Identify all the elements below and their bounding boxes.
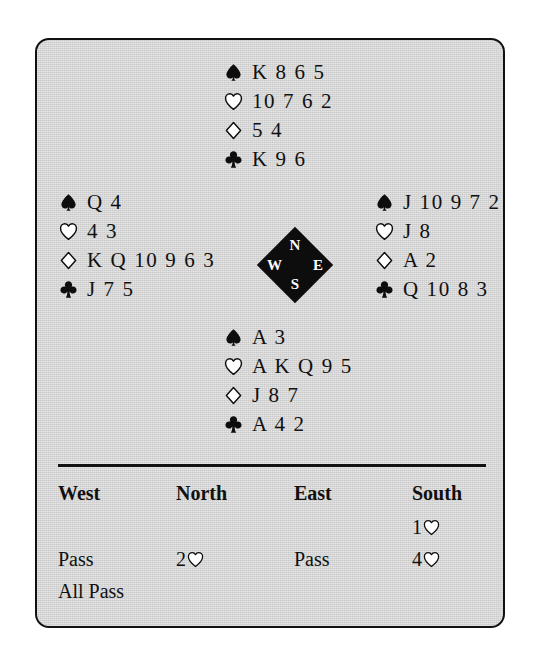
north-spades-ranks: K 8 6 5 bbox=[252, 62, 326, 83]
auction-row: 1 bbox=[58, 512, 490, 544]
compass-label-north: N bbox=[290, 238, 301, 253]
diamond-icon bbox=[224, 121, 243, 140]
east-spades-ranks: J 10 9 7 2 bbox=[403, 192, 501, 213]
west-diamonds-ranks: K Q 10 9 6 3 bbox=[87, 250, 215, 271]
auction-header-east: East bbox=[294, 476, 412, 512]
spade-icon bbox=[224, 63, 243, 82]
south-spades-ranks: A 3 bbox=[252, 327, 287, 348]
spade-icon bbox=[59, 193, 78, 212]
auction-header-north: North bbox=[176, 476, 294, 512]
diamond-icon bbox=[375, 251, 394, 270]
auction-cell-south: 1 bbox=[412, 512, 490, 544]
auction-cell-west bbox=[58, 512, 176, 544]
compass-label-south: S bbox=[291, 277, 299, 292]
bid-level: 4 bbox=[412, 548, 422, 571]
club-icon bbox=[224, 150, 243, 169]
club-icon bbox=[224, 415, 243, 434]
south-clubs-line: A 4 2 bbox=[224, 410, 353, 439]
auction-row: Pass 2 Pass 4 bbox=[58, 544, 490, 576]
north-diamonds-line: 5 4 bbox=[224, 116, 333, 145]
west-clubs-ranks: J 7 5 bbox=[87, 279, 135, 300]
hand-west: Q 4 4 3 K Q 10 9 6 3 J 7 5 bbox=[59, 188, 215, 304]
west-diamonds-line: K Q 10 9 6 3 bbox=[59, 246, 215, 275]
south-hearts-ranks: A K Q 9 5 bbox=[252, 356, 353, 377]
east-diamonds-line: A 2 bbox=[375, 246, 501, 275]
west-spades-ranks: Q 4 bbox=[87, 192, 123, 213]
auction-header-south: South bbox=[412, 476, 490, 512]
diamond-icon bbox=[224, 386, 243, 405]
west-clubs-line: J 7 5 bbox=[59, 275, 215, 304]
north-hearts-line: 10 7 6 2 bbox=[224, 87, 333, 116]
north-clubs-line: K 9 6 bbox=[224, 145, 333, 174]
hand-north: K 8 6 5 10 7 6 2 5 4 K 9 6 bbox=[224, 58, 333, 174]
heart-icon bbox=[187, 551, 204, 568]
east-hearts-line: J 8 bbox=[375, 217, 501, 246]
auction-cell-north bbox=[176, 512, 294, 544]
north-diamonds-ranks: 5 4 bbox=[252, 120, 283, 141]
auction-header-west: West bbox=[58, 476, 176, 512]
south-hearts-line: A K Q 9 5 bbox=[224, 352, 353, 381]
compass-label-west: W bbox=[267, 258, 282, 273]
heart-icon bbox=[423, 551, 440, 568]
compass-label-east: E bbox=[313, 258, 323, 273]
bridge-deal-panel: K 8 6 5 10 7 6 2 5 4 K 9 6 Q 4 4 3 K Q 1… bbox=[35, 38, 505, 628]
bid-level: 2 bbox=[176, 548, 186, 571]
heart-icon bbox=[224, 92, 243, 111]
compass-rose: N W E S bbox=[257, 227, 333, 303]
spade-icon bbox=[375, 193, 394, 212]
club-icon bbox=[375, 280, 394, 299]
auction-cell-south bbox=[412, 576, 490, 608]
bid-1-hearts: 1 bbox=[412, 516, 440, 539]
north-spades-line: K 8 6 5 bbox=[224, 58, 333, 87]
heart-icon bbox=[224, 357, 243, 376]
south-diamonds-line: J 8 7 bbox=[224, 381, 353, 410]
south-clubs-ranks: A 4 2 bbox=[252, 414, 306, 435]
south-spades-line: A 3 bbox=[224, 323, 353, 352]
south-diamonds-ranks: J 8 7 bbox=[252, 385, 300, 406]
auction-cell-west: Pass bbox=[58, 544, 176, 576]
east-hearts-ranks: J 8 bbox=[403, 221, 432, 242]
spade-icon bbox=[224, 328, 243, 347]
auction-cell-south: 4 bbox=[412, 544, 490, 576]
east-spades-line: J 10 9 7 2 bbox=[375, 188, 501, 217]
west-hearts-ranks: 4 3 bbox=[87, 221, 118, 242]
auction-cell-east: Pass bbox=[294, 544, 412, 576]
bid-4-hearts: 4 bbox=[412, 548, 440, 571]
auction-row: All Pass bbox=[58, 576, 490, 608]
heart-icon bbox=[375, 222, 394, 241]
east-clubs-ranks: Q 10 8 3 bbox=[403, 279, 489, 300]
bid-level: 1 bbox=[412, 516, 422, 539]
north-hearts-ranks: 10 7 6 2 bbox=[252, 91, 333, 112]
auction-cell-east bbox=[294, 576, 412, 608]
hand-south: A 3 A K Q 9 5 J 8 7 A 4 2 bbox=[224, 323, 353, 439]
auction-cell-west: All Pass bbox=[58, 576, 176, 608]
heart-icon bbox=[423, 519, 440, 536]
west-hearts-line: 4 3 bbox=[59, 217, 215, 246]
east-diamonds-ranks: A 2 bbox=[403, 250, 438, 271]
auction-header-row: West North East South bbox=[58, 476, 490, 512]
east-clubs-line: Q 10 8 3 bbox=[375, 275, 501, 304]
bid-2-hearts: 2 bbox=[176, 548, 204, 571]
west-spades-line: Q 4 bbox=[59, 188, 215, 217]
heart-icon bbox=[59, 222, 78, 241]
auction-table: West North East South 1 bbox=[58, 476, 490, 608]
north-clubs-ranks: K 9 6 bbox=[252, 149, 307, 170]
club-icon bbox=[59, 280, 78, 299]
diamond-icon bbox=[59, 251, 78, 270]
auction-cell-north: 2 bbox=[176, 544, 294, 576]
auction-divider bbox=[58, 464, 486, 467]
auction-cell-east bbox=[294, 512, 412, 544]
hand-east: J 10 9 7 2 J 8 A 2 Q 10 8 3 bbox=[375, 188, 501, 304]
auction-cell-north bbox=[176, 576, 294, 608]
